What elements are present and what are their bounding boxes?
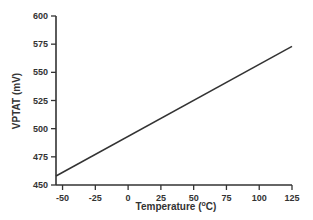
y-tick-label: 575 xyxy=(33,39,48,49)
plot-area xyxy=(56,46,292,176)
series-line-vptat xyxy=(56,46,292,176)
y-tick-label: 550 xyxy=(33,67,48,77)
y-tick-label: 525 xyxy=(33,96,48,106)
x-tick-label: -25 xyxy=(89,193,102,203)
y-tick-label: 500 xyxy=(33,124,48,134)
x-tick-label: -50 xyxy=(56,193,69,203)
line-chart: 450475500525550575600 -50-25025507510012… xyxy=(0,0,313,220)
x-tick-label: 125 xyxy=(284,193,299,203)
chart-canvas: 450475500525550575600 -50-25025507510012… xyxy=(0,0,313,220)
x-tick-label: 0 xyxy=(126,193,131,203)
y-tick-label: 600 xyxy=(33,11,48,21)
x-tick-label: 100 xyxy=(252,193,267,203)
y-tick-label: 450 xyxy=(33,180,48,190)
y-axis-label: VPTAT (mV) xyxy=(11,73,22,129)
y-tick-label: 475 xyxy=(33,152,48,162)
x-axis-label: Temperature (oC) xyxy=(136,200,217,212)
y-axis: 450475500525550575600 xyxy=(33,11,56,190)
x-tick-label: 75 xyxy=(221,193,231,203)
